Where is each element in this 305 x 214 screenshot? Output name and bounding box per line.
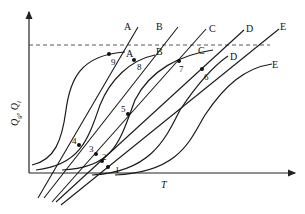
diagram-canvas: Qg, Ql T A B C D E A B C D E 9 8 7 6 5 4…	[0, 0, 305, 214]
point-3-label: 3	[89, 144, 94, 154]
label-line-a: A	[124, 21, 132, 32]
generation-curve-a	[32, 52, 125, 165]
label-curve-d: D	[230, 51, 237, 62]
point-8-label: 8	[137, 62, 142, 72]
label-curve-e: E	[272, 59, 278, 70]
point-1	[106, 165, 110, 169]
label-line-d: D	[246, 23, 253, 34]
label-line-b: B	[156, 21, 163, 32]
label-line-c: C	[209, 23, 216, 34]
point-5-label: 5	[121, 104, 126, 114]
label-curve-c: C	[198, 45, 205, 56]
point-9-label: 9	[111, 57, 116, 67]
point-1-label: 1	[115, 165, 120, 175]
point-9	[107, 52, 111, 56]
removal-line-e	[61, 29, 279, 205]
label-curve-a: A	[126, 48, 134, 59]
point-6-label: 6	[204, 72, 209, 82]
point-7	[177, 59, 181, 63]
point-4-label: 4	[72, 136, 77, 146]
label-curve-b: B	[156, 46, 163, 57]
point-4	[77, 143, 81, 147]
generation-curve-e	[115, 64, 272, 175]
point-6	[200, 67, 204, 71]
point-5	[126, 112, 130, 116]
point-3	[94, 152, 98, 156]
x-axis-label: T	[161, 179, 168, 190]
point-8	[132, 58, 136, 62]
svg-text:Qg, Ql: Qg, Ql	[9, 101, 23, 126]
point-2-label: 2	[102, 152, 107, 162]
y-axis-label: Qg, Ql	[9, 101, 23, 126]
point-7-label: 7	[179, 64, 184, 74]
label-line-e: E	[280, 21, 286, 32]
